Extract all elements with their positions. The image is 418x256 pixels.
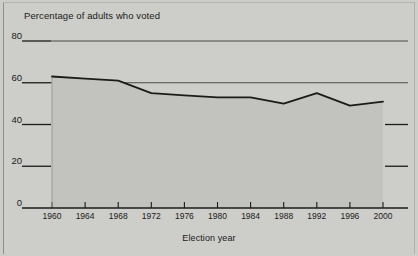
x-tick-label-1964: 1964 (68, 211, 102, 221)
x-tick-label-1976: 1976 (167, 211, 201, 221)
x-tick-label-1996: 1996 (333, 211, 367, 221)
y-tick-label-60: 60 (0, 72, 22, 83)
x-tick-label-1980: 1980 (201, 211, 235, 221)
area-fill (52, 76, 383, 208)
x-tick-label-2000: 2000 (366, 211, 400, 221)
gridline-group (51, 41, 408, 83)
y-tick-label-40: 40 (0, 114, 22, 125)
x-tick-label-1984: 1984 (234, 211, 268, 221)
y-tick-label-0: 0 (0, 197, 22, 208)
x-axis-title: Election year (0, 233, 418, 243)
x-tick-label-1992: 1992 (300, 211, 334, 221)
chart-figure: Percentage of adults who voted 020406080… (0, 0, 418, 256)
x-tick-label-1968: 1968 (101, 211, 135, 221)
x-tick-label-1988: 1988 (267, 211, 301, 221)
x-tick-label-1960: 1960 (35, 211, 69, 221)
y-tick-label-80: 80 (0, 30, 22, 41)
y-tick-label-20: 20 (0, 155, 22, 166)
x-tick-label-1972: 1972 (134, 211, 168, 221)
